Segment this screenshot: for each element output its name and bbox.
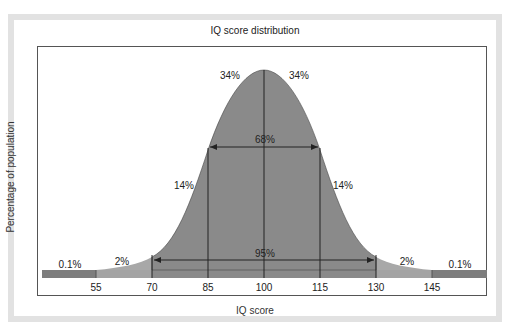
label-range-95: 95% <box>255 248 275 259</box>
label-range-68: 68% <box>255 134 275 145</box>
label-right-34: 34% <box>289 70 309 81</box>
x-tick-100: 100 <box>256 282 273 293</box>
baseline-bar-left-2 <box>96 270 152 278</box>
x-tick-85: 85 <box>202 282 214 293</box>
baseline-bar-right-2 <box>376 270 432 278</box>
x-tick-55: 55 <box>90 282 102 293</box>
x-tick-70: 70 <box>146 282 158 293</box>
label-far-left: 0.1% <box>59 259 82 270</box>
x-tick-130: 130 <box>368 282 385 293</box>
label-right-2: 2% <box>400 256 415 267</box>
bell-curve-chart: 0.1% 2% 14% 34% 34% 14% 2% 0.1% 68% 95% … <box>0 0 510 334</box>
label-left-34: 34% <box>220 70 240 81</box>
label-far-right: 0.1% <box>449 259 472 270</box>
label-right-14: 14% <box>333 180 353 191</box>
baseline-bar-right-tail <box>432 270 487 278</box>
label-left-2: 2% <box>115 256 130 267</box>
label-left-14: 14% <box>174 180 194 191</box>
baseline-bar-left-tail <box>42 270 96 278</box>
x-tick-115: 115 <box>312 282 328 293</box>
x-tick-145: 145 <box>424 282 441 293</box>
